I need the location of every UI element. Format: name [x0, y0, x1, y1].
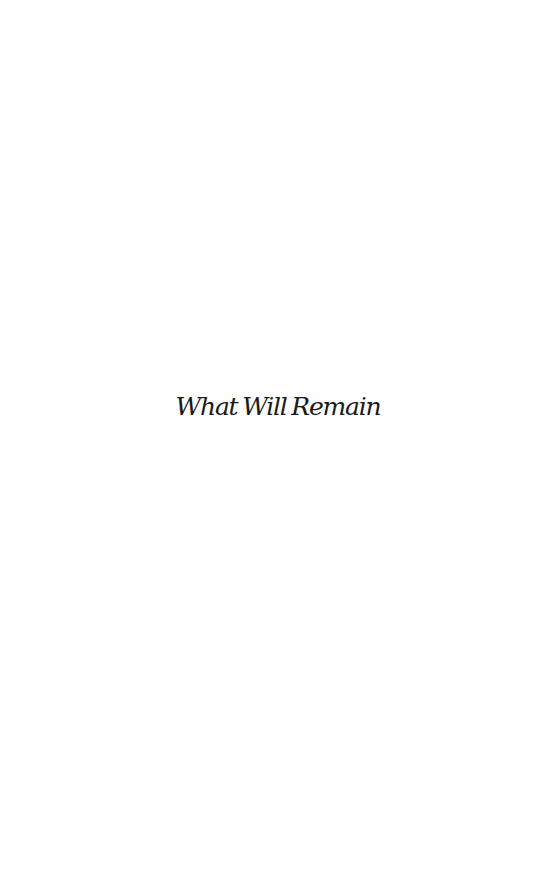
book-title: What Will Remain	[0, 389, 552, 425]
book-page: What Will Remain	[0, 0, 552, 880]
